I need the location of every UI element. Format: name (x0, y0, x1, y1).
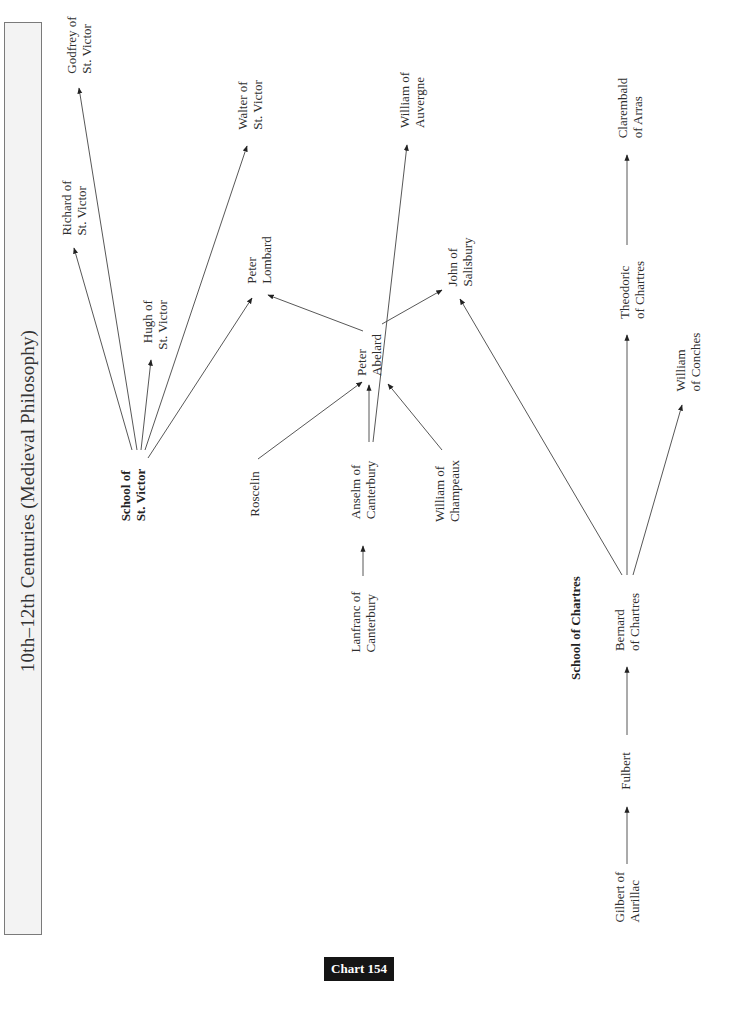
node-hugh: Hugh of St. Victor (140, 300, 170, 350)
node-peter-abelard: Peter Abelard (354, 334, 384, 376)
node-peter-lombard: Peter Lombard (244, 236, 274, 284)
node-line: of Arras (630, 78, 645, 139)
node-school-st-victor: School of St. Victor (118, 469, 148, 522)
node-line: Champeaux (447, 460, 462, 522)
node-line: Anselm of (348, 461, 363, 519)
node-bernard: Bernard of Chartres (612, 593, 642, 651)
node-line: Godfrey of (64, 16, 79, 73)
edge-bernard-salisbury (460, 299, 622, 575)
node-line: Canterbury (363, 592, 378, 653)
node-line: Gilbert of (612, 872, 627, 923)
node-line: School of Chartres (568, 576, 583, 680)
edge-abelard-lombard (268, 295, 363, 331)
node-richard: Richard of St. Victor (59, 180, 89, 235)
node-fulbert: Fulbert (618, 752, 633, 790)
node-line: School of (118, 469, 133, 522)
node-line: Hugh of (140, 300, 155, 350)
edge-stvictor-walter (145, 146, 247, 450)
node-line: Salisbury (460, 237, 475, 286)
node-line: Lanfranc of (348, 592, 363, 653)
node-line: Auvergne (412, 72, 427, 128)
node-walter: Walter of St. Victor (235, 80, 265, 130)
node-gilbert: Gilbert of Aurillac (612, 872, 642, 923)
edge-stvictor-richard (74, 248, 132, 450)
node-line: John of (445, 237, 460, 286)
node-line: St. Victor (79, 16, 94, 73)
node-line: St. Victor (155, 300, 170, 350)
edge-abelard-salisbury (382, 290, 442, 324)
edge-anselm-auvergne (373, 145, 407, 442)
node-line: St. Victor (74, 180, 89, 235)
node-line: Roscelin (247, 471, 262, 517)
edge-stvictor-godfrey (79, 88, 137, 450)
node-line: Abelard (369, 334, 384, 376)
node-line: Fulbert (618, 752, 633, 790)
node-clarembald: Clarembald of Arras (615, 78, 645, 139)
node-william-auvergne: William of Auvergne (397, 72, 427, 128)
node-lanfranc: Lanfranc of Canterbury (348, 592, 378, 653)
node-william-champeaux: William of Champeaux (432, 460, 462, 522)
node-line: Clarembald (615, 78, 630, 139)
node-school-chartres: School of Chartres (568, 576, 583, 680)
node-line: Theodoric (617, 261, 632, 319)
node-line: St. Victor (133, 469, 148, 522)
node-line: St. Victor (250, 80, 265, 130)
node-roscelin: Roscelin (247, 471, 262, 517)
node-line: Richard of (59, 180, 74, 235)
node-godfrey: Godfrey of St. Victor (64, 16, 94, 73)
node-william-conches: William of Conches (673, 333, 703, 392)
node-line: William of (432, 460, 447, 522)
node-line: Aurillac (627, 872, 642, 923)
node-line: Canterbury (363, 461, 378, 519)
edge-bernard-conches (633, 405, 682, 575)
node-line: of Conches (688, 333, 703, 392)
node-line: William (673, 333, 688, 392)
chart-number-label: Chart 154 (324, 957, 394, 981)
node-line: Lombard (259, 236, 274, 284)
edge-champeaux-abelard (388, 384, 442, 450)
edge-roscelin-abelard (258, 382, 362, 459)
node-line: Peter (244, 236, 259, 284)
node-line: of Chartres (632, 261, 647, 319)
node-line: of Chartres (627, 593, 642, 651)
node-line: William of (397, 72, 412, 128)
node-anselm: Anselm of Canterbury (348, 461, 378, 519)
node-line: Bernard (612, 593, 627, 651)
node-line: Walter of (235, 80, 250, 130)
node-john-salisbury: John of Salisbury (445, 237, 475, 286)
node-theodoric: Theodoric of Chartres (617, 261, 647, 319)
node-line: Peter (354, 334, 369, 376)
